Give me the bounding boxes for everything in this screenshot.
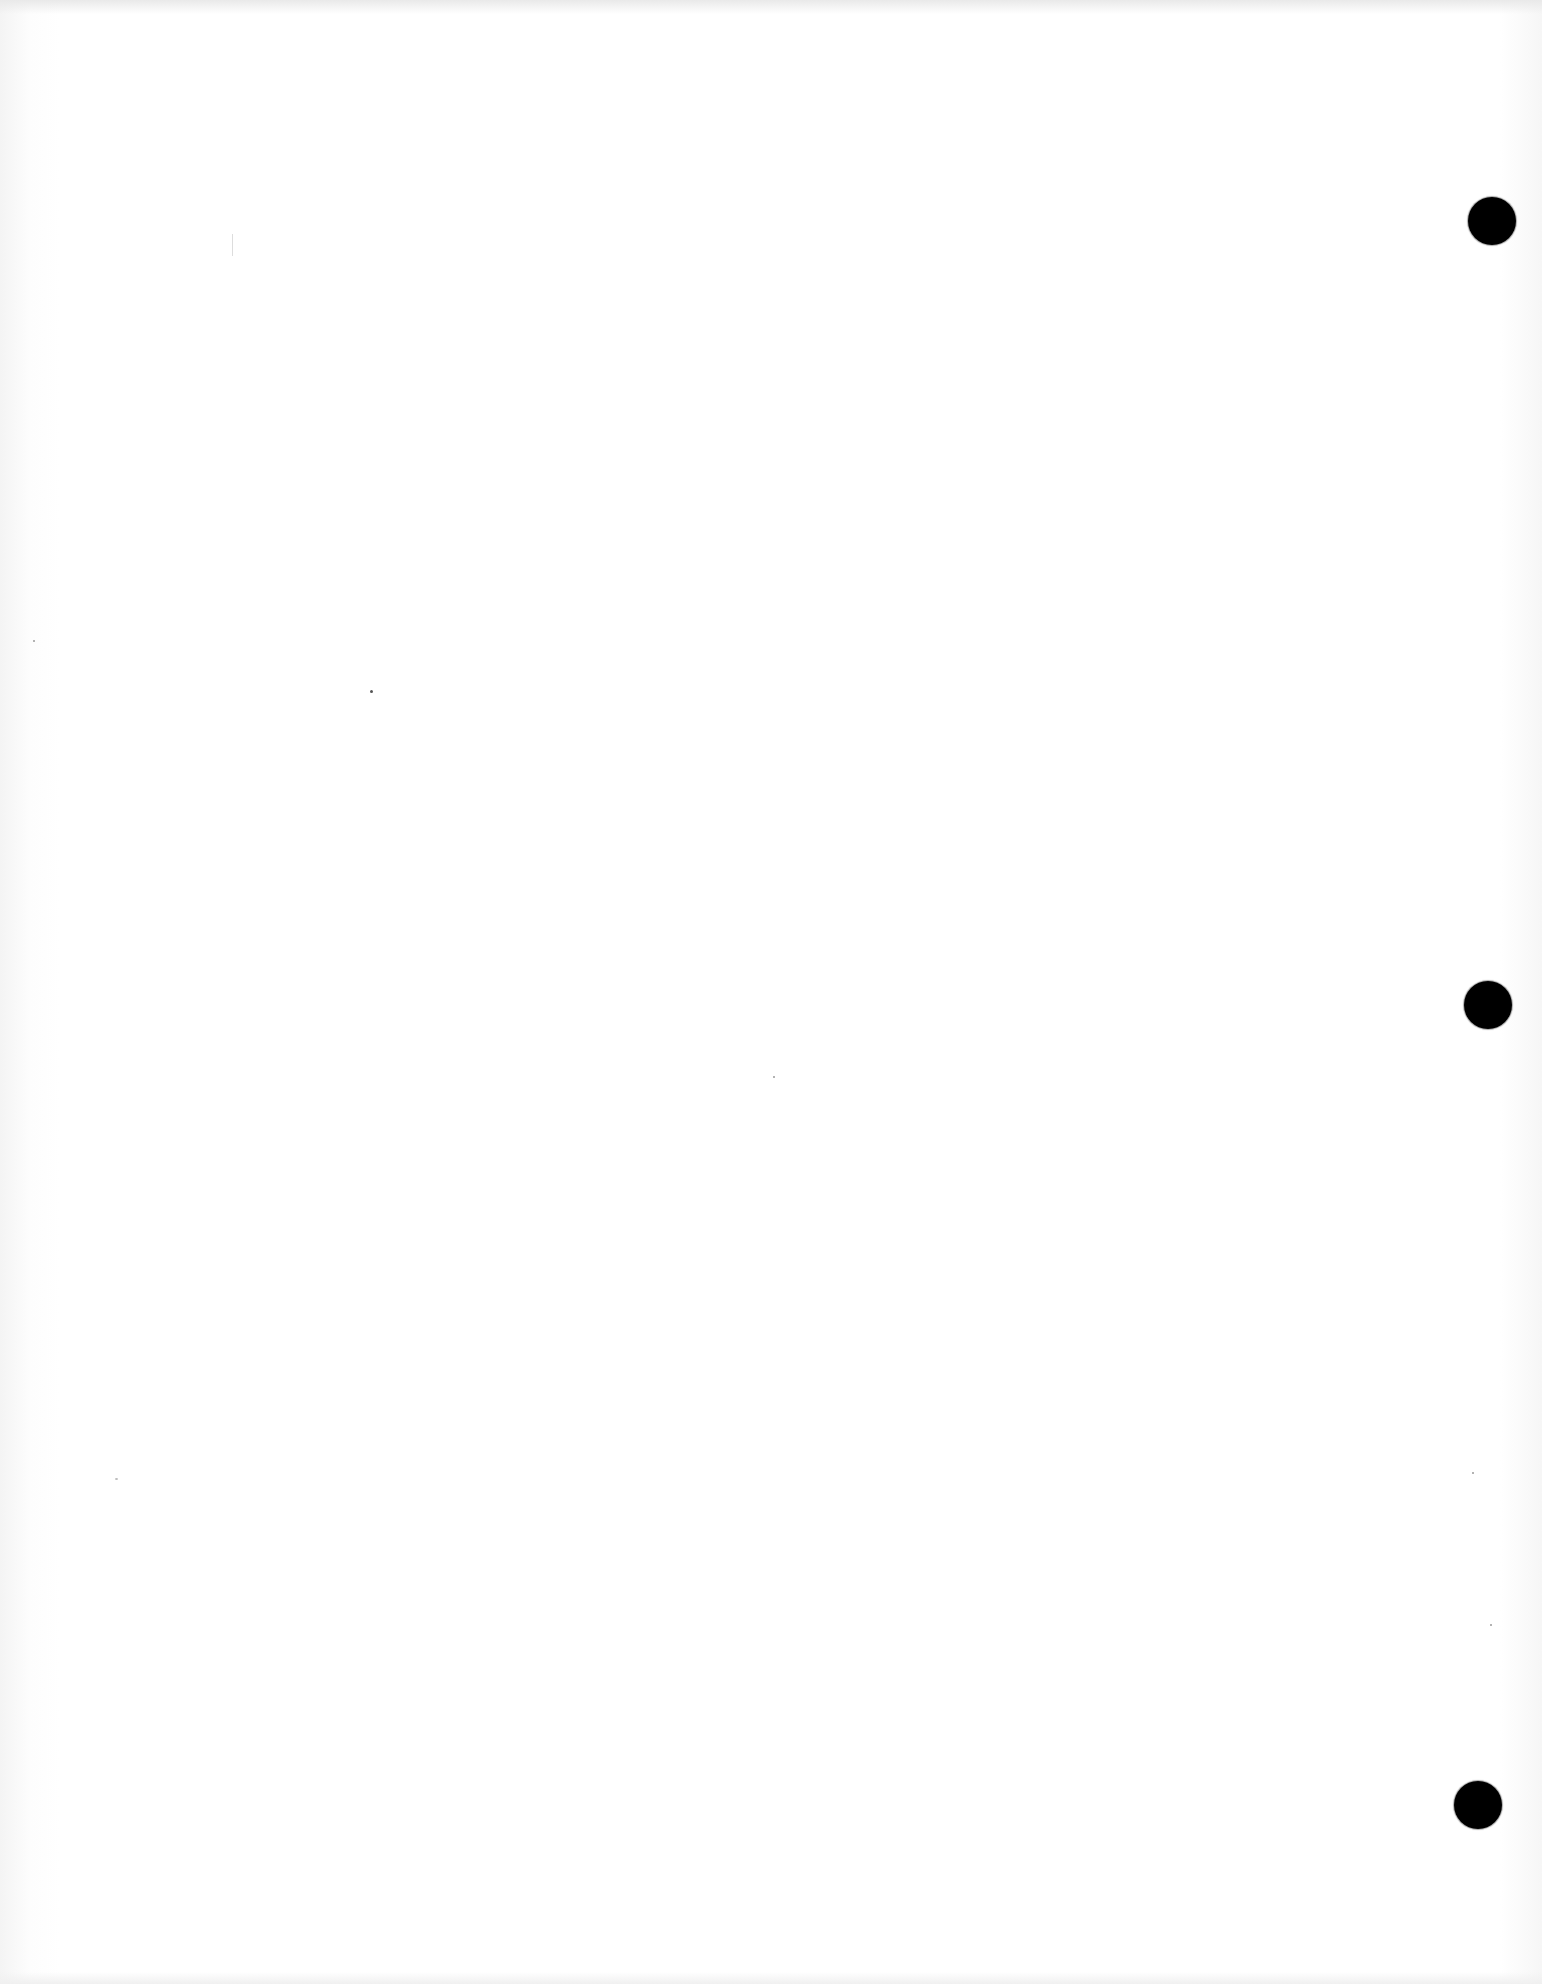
scan-speck: [370, 690, 373, 693]
scan-speck: [33, 640, 35, 642]
blank-page: [0, 0, 1542, 1984]
scan-speck: [1490, 1624, 1492, 1626]
scan-speck: [115, 1478, 118, 1480]
punch-hole-bottom: [1454, 1781, 1502, 1829]
punch-hole-middle: [1464, 981, 1512, 1029]
punch-hole-top: [1468, 197, 1516, 245]
scan-artifact-line: [232, 234, 233, 256]
scan-speck: [1472, 1472, 1474, 1474]
scan-speck: [773, 1076, 775, 1078]
scan-edge-shadow-bottom: [0, 1972, 1542, 1984]
scan-edge-shadow-top: [0, 0, 1542, 14]
